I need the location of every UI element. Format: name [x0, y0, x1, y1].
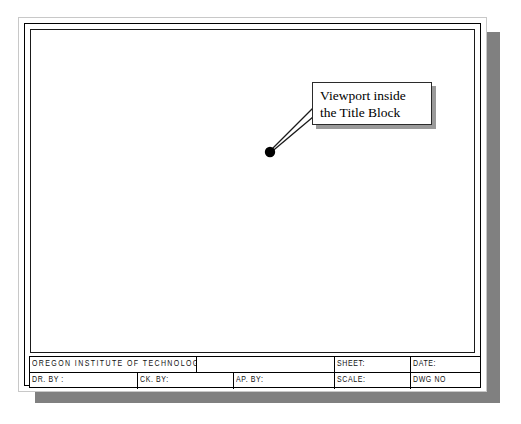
dwg-no-label: DWG NO [413, 374, 446, 385]
date-label: DATE: [413, 358, 436, 369]
title-block-cell-approved-by[interactable]: AP. BY: [234, 373, 335, 389]
sheet-label: SHEET: [337, 358, 365, 369]
title-block-cell-dwg-no[interactable]: DWG NO [411, 373, 482, 389]
scale-label: SCALE: [337, 374, 366, 385]
title-block-cell-sheet[interactable]: SHEET: [335, 357, 411, 372]
title-block-cell-checked-by[interactable]: CK. BY: [138, 373, 234, 389]
drawing-canvas: OREGON INSTITUTE OF TECHNOLOGY SHEET: DA… [0, 0, 521, 424]
checked-by-label: CK. BY: [140, 374, 169, 385]
callout-box[interactable]: Viewport inside the Title Block [312, 82, 432, 125]
approved-by-label: AP. BY: [236, 374, 263, 385]
title-block-cell-scale[interactable]: SCALE: [335, 373, 411, 389]
title-block-cell-drawn-by[interactable]: DR. BY : [30, 373, 138, 389]
title-block-cell-date[interactable]: DATE: [411, 357, 482, 372]
title-block-row-top: OREGON INSTITUTE OF TECHNOLOGY SHEET: DA… [30, 357, 480, 373]
drawn-by-label: DR. BY : [32, 374, 64, 385]
title-block-row-bottom: DR. BY : CK. BY: AP. BY: SCALE: DWG NO [30, 373, 480, 389]
callout-text-line-1: Viewport inside [320, 87, 424, 104]
title-block-cell-company[interactable]: OREGON INSTITUTE OF TECHNOLOGY [30, 357, 197, 372]
company-name-label: OREGON INSTITUTE OF TECHNOLOGY [32, 358, 197, 369]
title-block-cell-drawing-title[interactable] [197, 357, 335, 372]
title-block[interactable]: OREGON INSTITUTE OF TECHNOLOGY SHEET: DA… [29, 356, 481, 388]
drawing-frame [30, 29, 475, 353]
callout-text-line-2: the Title Block [320, 104, 424, 121]
